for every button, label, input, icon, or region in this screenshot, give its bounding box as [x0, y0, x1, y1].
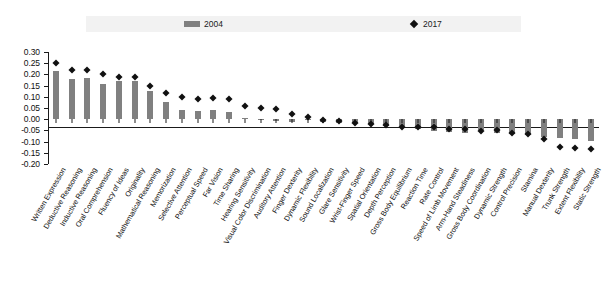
y-tick-label: 0.00 [24, 114, 40, 124]
x-tick-mark [528, 119, 529, 123]
bar-2004[interactable] [53, 71, 59, 119]
diamond-2017[interactable] [115, 74, 122, 81]
chart-column[interactable] [457, 52, 473, 164]
diamond-2017[interactable] [540, 136, 547, 143]
diamond-2017[interactable] [131, 73, 138, 80]
diamond-2017[interactable] [225, 96, 232, 103]
chart-column[interactable] [142, 52, 158, 164]
bar-2004[interactable] [132, 81, 138, 120]
chart-column[interactable] [316, 52, 332, 164]
chart-column[interactable] [79, 52, 95, 164]
x-tick-mark [512, 119, 513, 123]
chart-column[interactable] [174, 52, 190, 164]
chart-column[interactable] [111, 52, 127, 164]
diamond-2017[interactable] [556, 143, 563, 150]
y-tick-label: 0.05 [24, 103, 40, 113]
chart-column[interactable] [410, 52, 426, 164]
legend-label-2004: 2004 [204, 20, 223, 29]
chart-column[interactable] [394, 52, 410, 164]
x-tick-mark [496, 119, 497, 123]
diamond-2017[interactable] [52, 60, 59, 67]
diamond-2017[interactable] [588, 145, 595, 152]
y-axis: 0.300.250.200.150.100.050.00-0.05-0.10-0… [0, 52, 46, 164]
diamond-2017[interactable] [178, 94, 185, 101]
y-tick-label: -0.20 [21, 159, 40, 169]
bar-2004[interactable] [195, 111, 201, 119]
y-tick-label: 0.25 [24, 58, 40, 68]
chart-legend: 2004 2017 [86, 16, 521, 32]
chart-column[interactable] [363, 52, 379, 164]
diamond-2017[interactable] [147, 82, 154, 89]
bar-2004[interactable] [163, 102, 169, 119]
y-tick-label: -0.15 [21, 148, 40, 158]
chart-column[interactable] [473, 52, 489, 164]
x-axis-labels: Written ExpressionDeductive ReasoningInd… [48, 166, 599, 261]
bar-swatch-icon [184, 21, 200, 27]
bar-2004[interactable] [100, 84, 106, 119]
legend-item-2017: 2017 [409, 20, 442, 29]
chart-column[interactable] [284, 52, 300, 164]
chart-column[interactable] [331, 52, 347, 164]
diamond-2017[interactable] [241, 102, 248, 109]
bar-2004[interactable] [116, 81, 122, 119]
chart-column[interactable] [127, 52, 143, 164]
diamond-2017[interactable] [194, 95, 201, 102]
x-tick-mark [449, 119, 450, 123]
chart-column[interactable] [489, 52, 505, 164]
bar-2004[interactable] [179, 110, 185, 119]
x-tick-mark [244, 119, 245, 123]
y-tick-label: -0.05 [21, 125, 40, 135]
x-tick-mark [575, 119, 576, 123]
chart-column[interactable] [520, 52, 536, 164]
diamond-2017[interactable] [210, 94, 217, 101]
x-tick-mark [55, 119, 56, 123]
chart-column[interactable] [190, 52, 206, 164]
chart-column[interactable] [253, 52, 269, 164]
y-tick-mark [44, 164, 48, 165]
bar-2004[interactable] [226, 112, 232, 119]
chart-column[interactable] [48, 52, 64, 164]
chart-column[interactable] [552, 52, 568, 164]
chart-column[interactable] [583, 52, 599, 164]
chart-column[interactable] [379, 52, 395, 164]
x-tick-mark [559, 119, 560, 123]
chart-column[interactable] [221, 52, 237, 164]
chart-column[interactable] [95, 52, 111, 164]
bar-2004[interactable] [147, 91, 153, 120]
bar-2004[interactable] [69, 79, 75, 119]
diamond-2017[interactable] [163, 89, 170, 96]
diamond-2017[interactable] [100, 71, 107, 78]
diamond-2017[interactable] [320, 117, 327, 124]
chart-column[interactable] [568, 52, 584, 164]
x-tick-mark [197, 119, 198, 123]
bar-2004[interactable] [210, 110, 216, 119]
diamond-2017[interactable] [572, 144, 579, 151]
chart-column[interactable] [300, 52, 316, 164]
chart-column[interactable] [158, 52, 174, 164]
x-tick-mark [213, 119, 214, 123]
chart-column[interactable] [268, 52, 284, 164]
legend-item-2004: 2004 [184, 20, 223, 29]
chart-column[interactable] [347, 52, 363, 164]
x-tick-mark [71, 119, 72, 123]
chart-column[interactable] [64, 52, 80, 164]
x-tick-mark [480, 119, 481, 123]
chart-column[interactable] [442, 52, 458, 164]
chart-column[interactable] [426, 52, 442, 164]
y-tick-label: 0.15 [24, 81, 40, 91]
chart-column[interactable] [536, 52, 552, 164]
chart-column[interactable] [505, 52, 521, 164]
diamond-2017[interactable] [288, 111, 295, 118]
diamond-2017[interactable] [84, 67, 91, 74]
chart-column[interactable] [205, 52, 221, 164]
x-tick-mark [87, 119, 88, 123]
diamond-marker-icon [410, 20, 418, 28]
diamond-2017[interactable] [273, 106, 280, 113]
x-tick-mark [134, 119, 135, 123]
bar-2004[interactable] [84, 78, 90, 119]
y-tick-label: 0.10 [24, 92, 40, 102]
diamond-2017[interactable] [257, 105, 264, 112]
diamond-2017[interactable] [68, 67, 75, 74]
chart-column[interactable] [237, 52, 253, 164]
x-tick-mark [260, 119, 261, 123]
